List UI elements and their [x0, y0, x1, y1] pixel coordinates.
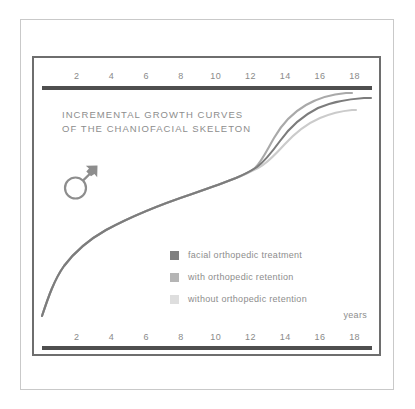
legend-item-label: without orthopedic retention — [188, 293, 307, 306]
tick-bottom-8: 8 — [178, 330, 183, 344]
figure-page: 24681012141618 INCREMENTAL GROWTH CURVES… — [0, 0, 415, 409]
tick-bottom-18: 18 — [349, 330, 360, 344]
tick-bottom-2: 2 — [74, 330, 79, 344]
legend-swatch-icon — [170, 251, 179, 260]
legend: facial orthopedic treatmentwith orthoped… — [170, 249, 370, 315]
legend-item-label: with orthopedic retention — [188, 271, 294, 284]
legend-swatch-icon — [170, 273, 179, 282]
legend-item[interactable]: facial orthopedic treatment — [170, 249, 370, 263]
legend-item[interactable]: without orthopedic retention — [170, 293, 370, 307]
tick-bottom-14: 14 — [280, 330, 291, 344]
bottom-axis-tick-labels: 24681012141618 — [42, 330, 372, 344]
legend-swatch-icon — [170, 295, 179, 304]
legend-item[interactable]: with orthopedic retention — [170, 271, 370, 285]
tick-bottom-12: 12 — [245, 330, 256, 344]
plot-frame: 24681012141618 INCREMENTAL GROWTH CURVES… — [32, 56, 381, 356]
bottom-axis-bar — [42, 346, 372, 350]
legend-item-label: facial orthopedic treatment — [188, 249, 302, 262]
tick-bottom-6: 6 — [144, 330, 149, 344]
tick-bottom-4: 4 — [109, 330, 114, 344]
axis-unit-label: years — [343, 310, 367, 320]
tick-bottom-16: 16 — [314, 330, 325, 344]
tick-bottom-10: 10 — [210, 330, 221, 344]
